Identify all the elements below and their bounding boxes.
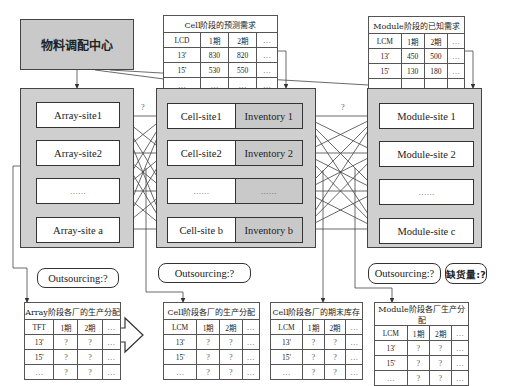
site-label: Cell-site b — [168, 218, 235, 242]
table-cell-inventory: Cell阶段各厂的期末库存 LCM 1期 2期 … 13' ? ? … 15' … — [270, 302, 363, 380]
array-site-a: Array-site a — [36, 217, 120, 243]
header-cell: 1期 — [407, 326, 429, 341]
material-allocation-center: 物料调配中心 — [20, 19, 134, 70]
table-cell-alloc: Cell阶段各厂的生产分配 LCM 1期 2期 … 13' ? ? … 15' … — [163, 302, 260, 380]
shortage-pill: 缺货量:? — [445, 263, 487, 284]
module-site-c: Module-site c — [379, 218, 474, 244]
module-site-1: Module-site 1 — [379, 103, 474, 129]
site-label: Cell-site1 — [168, 104, 235, 128]
header-cell: … — [257, 33, 278, 48]
table-row: 13' 450 500 … — [369, 49, 465, 64]
header-cell: 2期 — [229, 33, 257, 48]
site-label: …… — [168, 179, 235, 203]
header-cell: 1期 — [54, 320, 78, 335]
table-row: … ? ? … — [164, 365, 260, 380]
header-cell: LCD — [164, 33, 201, 48]
header-cell: 1期 — [302, 320, 324, 335]
array-site-2: Array-site2 — [36, 140, 120, 166]
table-title: Module阶段各厂生产分配 — [375, 303, 469, 326]
inventory-label: Inventory 2 — [235, 141, 303, 165]
header-cell: 2期 — [219, 320, 242, 335]
center-label: 物料调配中心 — [41, 36, 113, 53]
module-site-ellipsis: …… — [379, 179, 474, 205]
header-cell: 2期 — [429, 326, 451, 341]
module-site-2: Module-site 2 — [379, 141, 474, 167]
caption-top-remnant — [12, 0, 14, 9]
header-cell: LCM — [164, 320, 197, 335]
table-row: 15' ? ? … — [25, 350, 121, 365]
array-site-ellipsis: …… — [36, 178, 120, 204]
header-cell: … — [242, 320, 259, 335]
outsourcing-label: Outsourcing:? — [375, 268, 435, 279]
table-row: 13' ? ? … — [25, 335, 121, 350]
header-cell: LCM — [375, 326, 408, 341]
header-cell: 2期 — [424, 34, 447, 49]
site-label: Array-site2 — [54, 148, 102, 159]
cell-site-1: Cell-site1 Inventory 1 — [167, 103, 303, 129]
table-row: 13' ? ? … — [271, 335, 363, 350]
outsourcing-label: Outsourcing:? — [48, 273, 108, 284]
header-cell: 1期 — [197, 320, 220, 335]
header-cell: TFT — [25, 320, 54, 335]
header-cell: LCM — [271, 320, 303, 335]
table-title: Array阶段各厂的生产分配 — [25, 303, 121, 320]
table-row: 15' 530 550 … — [164, 63, 278, 78]
header-cell: LCM — [369, 34, 402, 49]
outsourcing-array: Outsourcing:? — [37, 268, 119, 288]
table-row: 13' ? ? … — [375, 341, 469, 356]
site-label: Module-site 1 — [397, 111, 456, 122]
table-row: 13' 830 820 … — [164, 48, 278, 63]
table-module-alloc: Module阶段各厂生产分配 LCM 1期 2期 … 13' ? ? … 15'… — [374, 302, 469, 386]
cell-site-2: Cell-site2 Inventory 2 — [167, 140, 303, 166]
header-cell: 2期 — [78, 320, 102, 335]
site-label: …… — [70, 187, 86, 196]
table-module-known: Module阶段的已知需求 LCM 1期 2期 … 13' 450 500 … … — [368, 16, 465, 94]
table-title: Module阶段的已知需求 — [369, 17, 465, 34]
table-title: Cell阶段各厂的期末库存 — [271, 303, 363, 320]
header-cell: 1期 — [401, 34, 424, 49]
header-cell: … — [447, 34, 464, 49]
cell-site-b: Cell-site b Inventory b — [167, 217, 303, 243]
table-row: … ? ? … — [375, 371, 469, 386]
outsourcing-cell: Outsourcing:? — [158, 263, 251, 283]
header-cell: 2期 — [324, 320, 346, 335]
flow-question-array-cell: ? — [141, 103, 145, 112]
table-array-alloc: Array阶段各厂的生产分配 TFT 1期 2期 … 13' ? ? … 15'… — [24, 302, 121, 380]
table-title: Cell阶段的预测需求 — [164, 16, 278, 33]
site-label: Module-site 2 — [397, 149, 456, 160]
table-row: … ? ? … — [25, 365, 121, 380]
table-row: 15' 130 180 … — [369, 64, 465, 79]
table-row: … ? ? … — [271, 365, 363, 380]
table-title: Cell阶段各厂的生产分配 — [164, 303, 260, 320]
shortage-label: 缺货量:? — [446, 267, 485, 281]
site-label: Cell-site2 — [168, 141, 235, 165]
table-cell-forecast: Cell阶段的预测需求 LCD 1期 2期 … 13' 830 820 … 15… — [163, 15, 278, 93]
inventory-label: Inventory 1 — [235, 104, 303, 128]
site-label: Array-site a — [53, 225, 103, 236]
header-cell: … — [346, 320, 363, 335]
flow-question-cell-module: ? — [341, 103, 345, 112]
header-cell: … — [102, 320, 121, 335]
outsourcing-label: Outsourcing:? — [175, 268, 235, 279]
table-row: 15' ? ? … — [271, 350, 363, 365]
array-site-1: Array-site1 — [36, 102, 120, 128]
header-cell: 1期 — [200, 33, 228, 48]
table-row: 15' ? ? … — [164, 350, 260, 365]
cell-site-ellipsis: …… …… — [167, 178, 303, 204]
site-label: Module-site c — [397, 226, 455, 237]
inventory-label: Inventory b — [235, 218, 303, 242]
site-label: Array-site1 — [54, 110, 102, 121]
header-cell: … — [451, 326, 468, 341]
site-label: …… — [419, 188, 435, 197]
outsourcing-module: Outsourcing:? — [368, 263, 441, 284]
table-row: 15' ? ? … — [375, 356, 469, 371]
table-row: 13' ? ? … — [164, 335, 260, 350]
inventory-label: …… — [235, 179, 303, 203]
